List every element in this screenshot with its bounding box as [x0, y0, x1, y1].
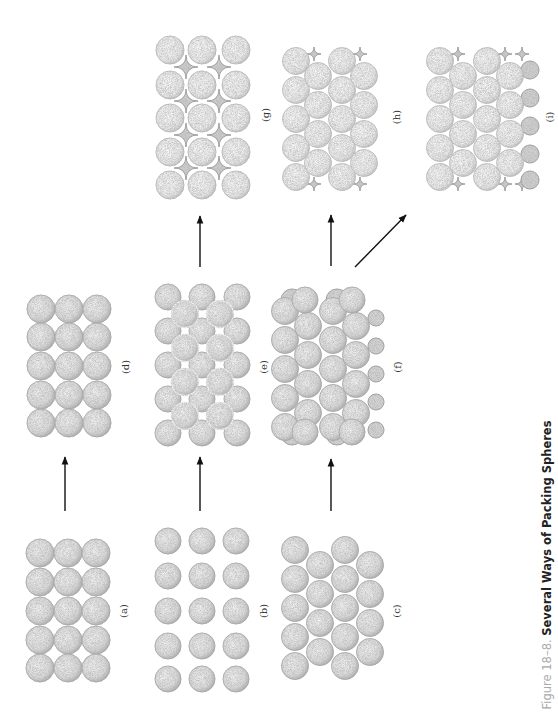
- sphere: [189, 598, 215, 624]
- sphere: [307, 552, 334, 579]
- sphere: [427, 164, 454, 191]
- sphere: [223, 666, 249, 692]
- sphere: [292, 287, 318, 313]
- sphere: [427, 77, 454, 104]
- sphere: [155, 598, 181, 624]
- sphere: [83, 381, 111, 409]
- panel-d: [27, 295, 111, 437]
- sphere: [497, 121, 524, 148]
- sphere: [156, 138, 184, 166]
- sphere: [27, 295, 55, 323]
- sphere: [282, 624, 309, 651]
- sphere: [26, 626, 54, 654]
- sphere: [54, 568, 82, 596]
- panel-g: [156, 36, 250, 199]
- sphere: [305, 92, 332, 119]
- sphere: [292, 419, 318, 445]
- sphere: [172, 403, 199, 430]
- sphere: [55, 352, 83, 380]
- sphere: [351, 63, 378, 90]
- sphere: [82, 626, 110, 654]
- panel-c: [282, 537, 384, 680]
- sphere: [474, 135, 501, 162]
- sphere: [207, 403, 234, 430]
- figure-title: Several Ways of Packing Spheres: [540, 421, 554, 636]
- panel-label-b: (b): [258, 604, 269, 618]
- sphere: [156, 104, 184, 132]
- figure-stage: (a) (b) (c) (d) (e) (f) (g) (h) (i) Figu…: [0, 0, 558, 728]
- sphere: [27, 409, 55, 437]
- sphere: [450, 121, 477, 148]
- sphere: [307, 639, 334, 666]
- sphere: [26, 568, 54, 596]
- sphere: [26, 539, 54, 567]
- sphere: [189, 563, 215, 589]
- sphere: [272, 327, 299, 354]
- sphere: [357, 581, 384, 608]
- sphere: [357, 639, 384, 666]
- sphere: [189, 528, 215, 554]
- sphere: [55, 409, 83, 437]
- sphere: [368, 394, 384, 410]
- sphere: [223, 633, 249, 659]
- sphere: [82, 597, 110, 625]
- sphere: [172, 369, 199, 396]
- sphere: [282, 537, 309, 564]
- panel-b: [155, 528, 249, 692]
- panel-a: [26, 539, 110, 682]
- sphere: [339, 419, 365, 445]
- sphere: [474, 77, 501, 104]
- panel-label-f: (f): [392, 361, 403, 373]
- sphere: [427, 48, 454, 75]
- sphere: [320, 385, 347, 412]
- panel-label-h: (h): [391, 110, 402, 124]
- sphere: [222, 71, 250, 99]
- sphere: [497, 150, 524, 177]
- sphere: [332, 653, 359, 680]
- sphere: [272, 356, 299, 383]
- sphere: [207, 301, 234, 328]
- sphere: [207, 335, 234, 362]
- sphere: [155, 666, 181, 692]
- sphere: [27, 352, 55, 380]
- figure-number: Figure 18–8.: [540, 639, 554, 709]
- panel-label-i: (i): [544, 111, 555, 122]
- sphere: [222, 171, 250, 199]
- figure-caption: Figure 18–8. Several Ways of Packing Sph…: [540, 421, 554, 710]
- panel-label-c: (c): [391, 604, 402, 617]
- sphere: [54, 654, 82, 682]
- sphere: [368, 366, 384, 382]
- sphere: [222, 104, 250, 132]
- sphere: [223, 563, 249, 589]
- sphere: [305, 63, 332, 90]
- sphere: [450, 63, 477, 90]
- sphere: [188, 104, 216, 132]
- sphere: [343, 313, 370, 340]
- sphere: [189, 633, 215, 659]
- sphere: [332, 595, 359, 622]
- sphere: [54, 539, 82, 567]
- sphere: [351, 150, 378, 177]
- sphere: [82, 568, 110, 596]
- sphere: [155, 633, 181, 659]
- sphere: [188, 71, 216, 99]
- sphere: [305, 121, 332, 148]
- sphere: [188, 171, 216, 199]
- sphere: [320, 327, 347, 354]
- sphere: [282, 566, 309, 593]
- sphere: [368, 338, 384, 354]
- sphere: [26, 654, 54, 682]
- sphere: [339, 287, 365, 313]
- sphere: [474, 48, 501, 75]
- sphere: [83, 352, 111, 380]
- sphere: [82, 654, 110, 682]
- sphere: [172, 335, 199, 362]
- sphere: [156, 71, 184, 99]
- panel-i: [427, 47, 540, 191]
- sphere: [320, 356, 347, 383]
- sphere: [305, 150, 332, 177]
- sphere: [497, 63, 524, 90]
- sphere: [343, 342, 370, 369]
- sphere: [26, 597, 54, 625]
- sphere: [156, 171, 184, 199]
